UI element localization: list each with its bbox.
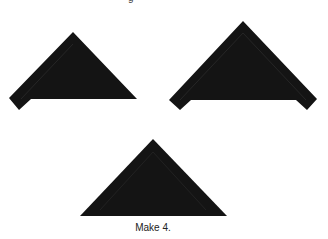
- figure-caption: Make 4.: [0, 222, 306, 233]
- plain-triangle-piece: [80, 139, 227, 216]
- quilt-pieces-illustration: [0, 0, 328, 239]
- triangle-both-arms-piece: [169, 21, 317, 110]
- triangle-left-arm-piece: [9, 32, 137, 110]
